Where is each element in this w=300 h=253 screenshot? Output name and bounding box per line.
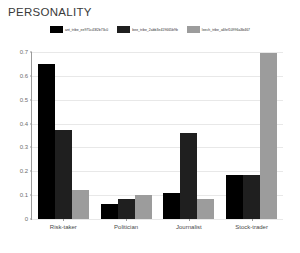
legend-entry[interactable]: ant_tribe_ee975c43f2b73c0 <box>50 26 108 33</box>
x-axis-category-label: Politician <box>114 224 138 230</box>
bar[interactable] <box>226 175 243 219</box>
y-axis-tick-label: 0.6 <box>20 73 28 79</box>
legend-swatch-icon <box>50 26 63 33</box>
y-axis-tick-label: 0.2 <box>20 168 28 174</box>
legend-label: bee_tribe_2abb3e419665b9b <box>132 28 178 32</box>
bar[interactable] <box>163 193 180 219</box>
y-axis-tick-label: 0.1 <box>20 192 28 198</box>
x-axis-tick-mark <box>126 219 127 221</box>
bar[interactable] <box>118 199 135 219</box>
bar[interactable] <box>101 204 118 220</box>
plot-area: 00.10.20.30.40.50.60.7 Risk-takerPolitic… <box>31 52 283 220</box>
bar-group: Stock-trader <box>220 52 283 219</box>
legend-swatch-icon <box>117 26 130 33</box>
bar-group: Risk-taker <box>32 52 95 219</box>
chart-title: PERSONALITY <box>8 6 92 18</box>
bar[interactable] <box>135 195 152 219</box>
bar[interactable] <box>197 199 214 219</box>
x-axis-tick-mark <box>252 219 253 221</box>
x-axis-tick-mark <box>63 219 64 221</box>
legend-label: leech_tribe_a6fef10996a3b467 <box>202 28 250 32</box>
legend-entry[interactable]: bee_tribe_2abb3e419665b9b <box>117 26 178 33</box>
bar-group: Journalist <box>158 52 221 219</box>
personality-bar-chart: PERSONALITY ant_tribe_ee975c43f2b73c0bee… <box>0 0 300 253</box>
x-axis-category-label: Stock-trader <box>235 224 268 230</box>
y-axis-tick-label: 0.5 <box>20 97 28 103</box>
bar-groups: Risk-takerPoliticianJournalistStock-trad… <box>32 52 283 219</box>
x-axis-tick-mark <box>189 219 190 221</box>
legend-swatch-icon <box>187 26 200 33</box>
y-axis-tick-label: 0.7 <box>20 49 28 55</box>
bar[interactable] <box>72 190 89 219</box>
gridline <box>32 219 283 220</box>
x-axis-category-label: Journalist <box>176 224 202 230</box>
chart-legend: ant_tribe_ee975c43f2b73c0bee_tribe_2abb3… <box>0 26 300 33</box>
bar[interactable] <box>260 53 277 219</box>
bar[interactable] <box>55 130 72 219</box>
legend-entry[interactable]: leech_tribe_a6fef10996a3b467 <box>187 26 250 33</box>
x-axis-category-label: Risk-taker <box>50 224 77 230</box>
bar[interactable] <box>243 175 260 219</box>
bar[interactable] <box>180 133 197 219</box>
y-axis-tick-label: 0.3 <box>20 144 28 150</box>
legend-label: ant_tribe_ee975c43f2b73c0 <box>65 28 108 32</box>
bar-group: Politician <box>95 52 158 219</box>
y-axis-tick-label: 0.4 <box>20 121 28 127</box>
bar[interactable] <box>38 64 55 219</box>
y-axis-tick-label: 0 <box>25 216 28 222</box>
